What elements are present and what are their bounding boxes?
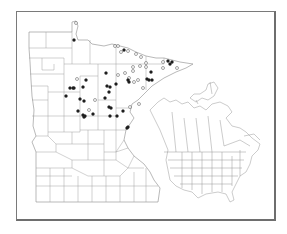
open-record-dot: [142, 87, 145, 90]
open-record-dot: [114, 45, 117, 48]
filled-record-dot: [110, 107, 113, 110]
arctic-islands: [190, 82, 218, 104]
filled-record-dot: [122, 110, 125, 113]
open-record-dot: [140, 56, 143, 59]
open-record-dot: [76, 78, 79, 81]
open-record-dot: [135, 53, 138, 56]
filled-record-dot: [167, 60, 170, 63]
filled-record-dot: [109, 115, 112, 118]
open-record-dot: [138, 103, 141, 106]
north-america-outline: [150, 98, 260, 202]
filled-record-dot: [169, 63, 172, 66]
filled-record-dot: [123, 49, 126, 52]
filled-record-dot: [77, 110, 80, 113]
filled-record-dot: [150, 71, 153, 74]
us-state-lines: [168, 150, 244, 194]
filled-record-dot: [116, 115, 119, 118]
open-record-dot: [145, 66, 148, 69]
county-boundaries: [29, 32, 164, 202]
open-record-dot: [132, 66, 135, 69]
open-record-dot: [117, 74, 120, 77]
open-record-dot: [129, 106, 132, 109]
north-america-inset: [150, 82, 260, 202]
open-record-dot: [162, 61, 165, 64]
filled-record-dot: [105, 72, 108, 75]
canada-province-lines: [164, 112, 250, 152]
filled-record-dot: [148, 79, 151, 82]
filled-record-dot: [79, 98, 82, 101]
filled-record-dot: [128, 81, 131, 84]
minnesota-map: [29, 21, 193, 202]
open-record-dot: [94, 99, 97, 102]
filled-record-dot: [85, 79, 88, 82]
open-record-dot: [117, 45, 120, 48]
open-record-dot: [124, 72, 127, 75]
open-record-dot: [75, 22, 78, 25]
filled-record-dot: [106, 85, 109, 88]
filled-record-dot: [83, 116, 86, 119]
atlantic-coast: [244, 134, 260, 140]
open-record-dot: [120, 51, 123, 54]
filled-record-dot: [104, 97, 107, 100]
open-record-dot: [162, 67, 165, 70]
filled-record-dot: [115, 83, 118, 86]
open-record-dot: [137, 79, 140, 82]
filled-record-dot: [82, 86, 85, 89]
filled-record-dot: [73, 87, 76, 90]
open-record-dot: [127, 50, 130, 53]
occurrence-points: [65, 22, 179, 130]
filled-record-dot: [109, 86, 112, 89]
filled-record-dot: [108, 91, 111, 94]
open-record-dot: [139, 65, 142, 68]
filled-record-dot: [73, 39, 76, 42]
filled-record-dot: [65, 95, 68, 98]
open-record-dot: [176, 67, 179, 70]
filled-record-dot: [69, 87, 72, 90]
open-record-dot: [133, 81, 136, 84]
filled-record-dot: [127, 126, 130, 129]
distribution-map: [0, 0, 287, 234]
filled-record-dot: [83, 100, 86, 103]
open-record-dot: [145, 62, 148, 65]
open-record-dot: [88, 109, 91, 112]
filled-record-dot: [92, 113, 95, 116]
filled-record-dot: [151, 79, 154, 82]
open-record-dot: [132, 70, 135, 73]
